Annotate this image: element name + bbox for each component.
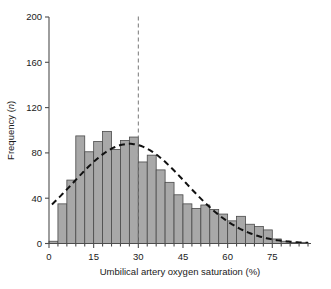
histogram-bar (138, 162, 147, 244)
y-tick-label: 80 (31, 147, 42, 158)
histogram-svg: 0408012016020001530456075 Umbilical arte… (0, 0, 331, 289)
histogram-bar (201, 205, 210, 244)
histogram-bar (103, 131, 112, 243)
y-tick-label: 40 (31, 193, 42, 204)
histogram-bar (94, 142, 103, 244)
histogram-bar (165, 182, 174, 243)
bars-group (49, 131, 308, 243)
x-tick-label: 45 (178, 251, 189, 262)
x-tick-label: 15 (88, 251, 99, 262)
x-tick-label: 60 (222, 251, 233, 262)
histogram-bar (263, 230, 272, 244)
histogram-bar (147, 155, 156, 243)
y-tick-label: 160 (26, 57, 42, 68)
histogram-bar (67, 180, 76, 243)
x-tick-label: 75 (267, 251, 278, 262)
histogram-bar (58, 204, 67, 244)
y-axis-title: Frequency (n) (5, 101, 16, 160)
histogram-bar (156, 170, 165, 244)
y-tick-label: 120 (26, 102, 42, 113)
x-tick-label: 0 (46, 251, 51, 262)
histogram-bar (192, 208, 201, 243)
histogram-bar (120, 140, 129, 243)
histogram-bar (254, 227, 263, 244)
histogram-bar (76, 136, 85, 244)
histogram-bar (183, 204, 192, 244)
histogram-figure: 0408012016020001530456075 Umbilical arte… (0, 0, 331, 289)
x-tick-label: 30 (133, 251, 144, 262)
x-axis-title: Umbilical artery oxygen saturation (%) (100, 266, 261, 277)
y-tick-label: 200 (26, 11, 42, 22)
histogram-bar (174, 195, 183, 244)
histogram-bar (129, 137, 138, 243)
y-tick-label: 0 (37, 238, 42, 249)
histogram-bar (112, 150, 121, 244)
